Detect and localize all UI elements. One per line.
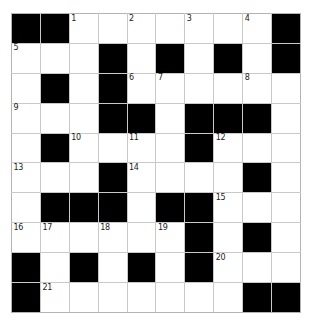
crossword-block-cell — [40, 193, 69, 223]
crossword-open-cell[interactable] — [156, 163, 185, 193]
crossword-open-cell[interactable]: 18 — [98, 223, 127, 253]
crossword-open-cell[interactable] — [243, 133, 272, 163]
crossword-open-cell[interactable] — [272, 163, 301, 193]
crossword-open-cell[interactable] — [40, 103, 69, 133]
crossword-open-cell[interactable] — [12, 193, 41, 223]
crossword-open-cell[interactable] — [156, 14, 185, 44]
crossword-grid-body: 123456789101112131415161718192021 — [12, 14, 301, 313]
crossword-open-cell[interactable] — [98, 253, 127, 283]
crossword-open-cell[interactable]: 19 — [156, 223, 185, 253]
crossword-row: 21 — [12, 283, 301, 313]
crossword-open-cell[interactable] — [214, 283, 243, 313]
crossword-open-cell[interactable] — [214, 14, 243, 44]
crossword-open-cell[interactable]: 14 — [127, 163, 156, 193]
crossword-open-cell[interactable]: 11 — [127, 133, 156, 163]
crossword-open-cell[interactable] — [98, 283, 127, 313]
crossword-open-cell[interactable]: 16 — [12, 223, 41, 253]
crossword-open-cell[interactable]: 6 — [127, 73, 156, 103]
crossword-open-cell[interactable] — [127, 283, 156, 313]
crossword-block-cell — [185, 133, 214, 163]
crossword-open-cell[interactable] — [185, 163, 214, 193]
crossword-open-cell[interactable] — [12, 133, 41, 163]
crossword-open-cell[interactable] — [185, 73, 214, 103]
crossword-block-cell — [69, 193, 98, 223]
crossword-open-cell[interactable]: 21 — [40, 283, 69, 313]
crossword-block-cell — [127, 253, 156, 283]
crossword-open-cell[interactable]: 7 — [156, 73, 185, 103]
crossword-open-cell[interactable] — [272, 223, 301, 253]
crossword-row: 101112 — [12, 133, 301, 163]
crossword-row: 16171819 — [12, 223, 301, 253]
clue-number: 17 — [42, 223, 52, 232]
crossword-open-cell[interactable] — [12, 73, 41, 103]
crossword-open-cell[interactable] — [214, 223, 243, 253]
crossword-open-cell[interactable] — [69, 73, 98, 103]
crossword-open-cell[interactable] — [69, 223, 98, 253]
crossword-open-cell[interactable] — [156, 103, 185, 133]
crossword-open-cell[interactable] — [214, 73, 243, 103]
clue-number: 1 — [71, 14, 76, 23]
crossword-open-cell[interactable]: 20 — [214, 253, 243, 283]
crossword-open-cell[interactable] — [272, 73, 301, 103]
crossword-open-cell[interactable] — [40, 253, 69, 283]
crossword-block-cell — [98, 73, 127, 103]
crossword-block-cell — [272, 43, 301, 73]
crossword-open-cell[interactable] — [243, 253, 272, 283]
crossword-open-cell[interactable] — [214, 163, 243, 193]
crossword-block-cell — [185, 103, 214, 133]
crossword-open-cell[interactable]: 10 — [69, 133, 98, 163]
crossword-open-cell[interactable] — [69, 43, 98, 73]
crossword-block-cell — [98, 163, 127, 193]
crossword-puzzle: 123456789101112131415161718192021 — [11, 13, 301, 313]
crossword-row: 1234 — [12, 14, 301, 44]
crossword-open-cell[interactable] — [98, 14, 127, 44]
crossword-block-cell — [185, 253, 214, 283]
crossword-open-cell[interactable] — [69, 163, 98, 193]
crossword-open-cell[interactable] — [127, 223, 156, 253]
crossword-open-cell[interactable] — [40, 163, 69, 193]
crossword-block-cell — [98, 103, 127, 133]
crossword-open-cell[interactable]: 8 — [243, 73, 272, 103]
clue-number: 2 — [129, 14, 134, 23]
crossword-open-cell[interactable] — [243, 193, 272, 223]
crossword-open-cell[interactable] — [272, 103, 301, 133]
crossword-open-cell[interactable]: 2 — [127, 14, 156, 44]
clue-number: 5 — [14, 43, 19, 52]
clue-number: 3 — [187, 14, 192, 23]
crossword-open-cell[interactable] — [156, 253, 185, 283]
crossword-open-cell[interactable] — [272, 253, 301, 283]
crossword-block-cell — [12, 14, 41, 44]
crossword-open-cell[interactable] — [98, 133, 127, 163]
crossword-row: 15 — [12, 193, 301, 223]
crossword-open-cell[interactable]: 3 — [185, 14, 214, 44]
crossword-open-cell[interactable] — [40, 43, 69, 73]
clue-number: 4 — [245, 14, 250, 23]
crossword-open-cell[interactable] — [127, 43, 156, 73]
crossword-open-cell[interactable] — [156, 283, 185, 313]
crossword-row: 9 — [12, 103, 301, 133]
crossword-block-cell — [156, 193, 185, 223]
crossword-open-cell[interactable] — [69, 103, 98, 133]
crossword-open-cell[interactable] — [127, 193, 156, 223]
crossword-block-cell — [185, 223, 214, 253]
crossword-open-cell[interactable] — [156, 133, 185, 163]
crossword-open-cell[interactable]: 17 — [40, 223, 69, 253]
crossword-block-cell — [12, 283, 41, 313]
crossword-open-cell[interactable] — [185, 283, 214, 313]
crossword-open-cell[interactable]: 5 — [12, 43, 41, 73]
crossword-open-cell[interactable]: 4 — [243, 14, 272, 44]
crossword-open-cell[interactable] — [272, 133, 301, 163]
crossword-open-cell[interactable]: 15 — [214, 193, 243, 223]
crossword-open-cell[interactable] — [185, 43, 214, 73]
crossword-open-cell[interactable]: 13 — [12, 163, 41, 193]
crossword-open-cell[interactable] — [243, 43, 272, 73]
crossword-open-cell[interactable] — [69, 283, 98, 313]
crossword-open-cell[interactable] — [272, 193, 301, 223]
crossword-block-cell — [243, 103, 272, 133]
crossword-open-cell[interactable]: 12 — [214, 133, 243, 163]
crossword-open-cell[interactable]: 1 — [69, 14, 98, 44]
clue-number: 8 — [245, 73, 250, 82]
crossword-open-cell[interactable]: 9 — [12, 103, 41, 133]
clue-number: 19 — [158, 223, 168, 232]
crossword-grid[interactable]: 123456789101112131415161718192021 — [11, 13, 301, 313]
